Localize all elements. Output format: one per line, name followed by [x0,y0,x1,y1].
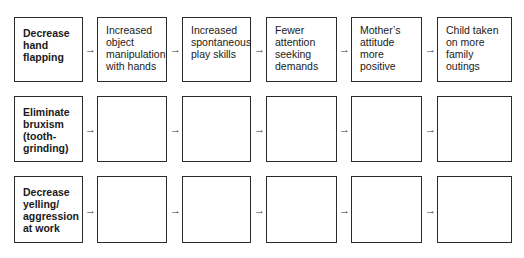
outcome-box: Increased spontaneous play skills [182,17,251,82]
arrow-icon: → [425,44,436,55]
outcome-box-empty[interactable] [182,96,251,162]
arrow-icon: → [254,124,265,135]
outcome-box: Fewer attention seeking demands [266,17,337,82]
arrow-icon: → [339,205,350,216]
outcome-text: Child taken on more family outings [446,24,511,72]
outcome-box-empty[interactable] [266,96,337,162]
outcome-box-empty[interactable] [437,96,512,162]
outcome-box-empty[interactable] [97,96,167,162]
outcome-box-empty[interactable] [266,176,337,243]
outcome-box-empty[interactable] [437,176,512,243]
outcome-box: Child taken on more family outings [437,17,512,82]
outcome-text: Fewer attention seeking demands [275,24,336,72]
arrow-icon: → [254,44,265,55]
arrow-icon: → [170,44,181,55]
arrow-icon: → [85,205,96,216]
outcome-box-empty[interactable] [97,176,167,243]
goal-text: Decrease hand flapping [23,27,82,63]
arrow-icon: → [339,124,350,135]
outcome-box-empty[interactable] [182,176,251,243]
arrow-icon: → [170,124,181,135]
arrow-icon: → [425,205,436,216]
outcome-box-empty[interactable] [351,176,422,243]
arrow-icon: → [170,205,181,216]
goal-text: Eliminate bruxism (tooth- grinding) [23,106,82,154]
goal-text: Decrease yelling/ aggression at work [23,186,82,234]
outcome-text: Increased object manipulation with hands [106,24,166,72]
outcome-text: Mother’s attitude more positive [360,24,421,72]
arrow-icon: → [339,44,350,55]
outcome-box-empty[interactable] [351,96,422,162]
outcome-text: Increased spontaneous play skills [191,24,250,60]
goal-box-bruxism: Eliminate bruxism (tooth- grinding) [14,96,83,162]
arrow-icon: → [85,124,96,135]
arrow-icon: → [254,205,265,216]
arrow-icon: → [85,44,96,55]
goal-box-yelling: Decrease yelling/ aggression at work [14,176,83,243]
outcome-box: Increased object manipulation with hands [97,17,167,82]
goal-box-hand-flapping: Decrease hand flapping [14,17,83,82]
arrow-icon: → [425,124,436,135]
outcome-box: Mother’s attitude more positive [351,17,422,82]
